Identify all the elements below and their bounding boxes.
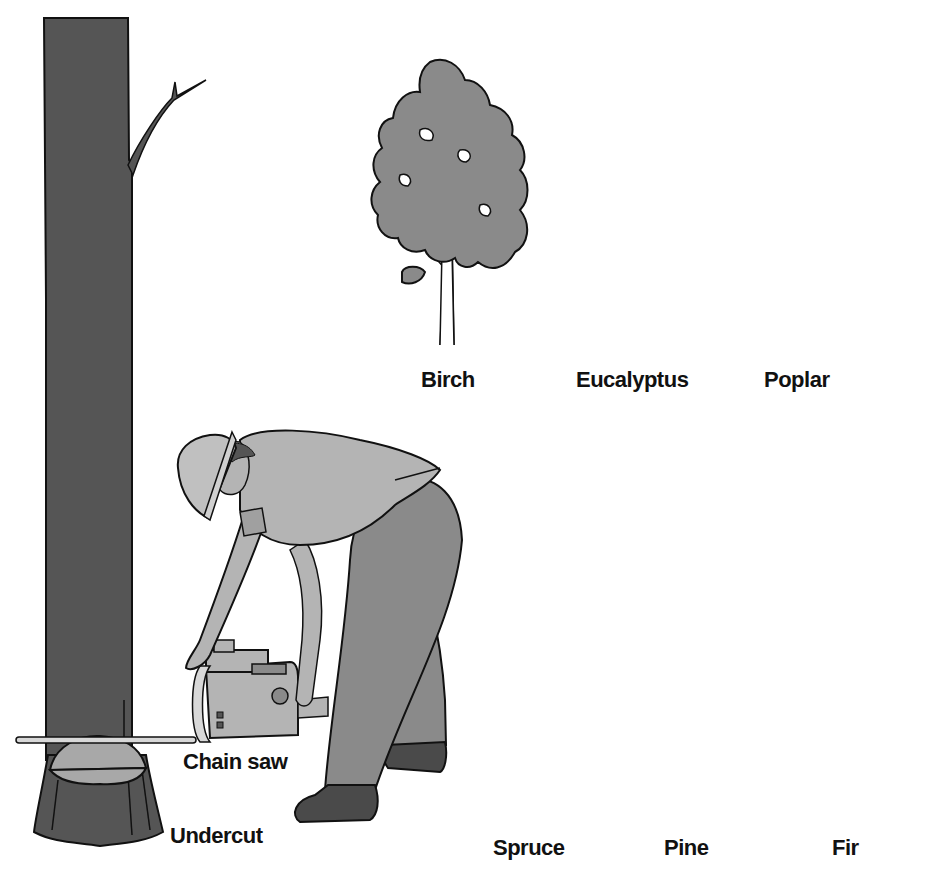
label-poplar: Poplar [764, 367, 829, 393]
birch-tree [371, 60, 527, 345]
label-chain-saw: Chain saw [183, 749, 287, 775]
tree-trunk [44, 18, 206, 760]
label-pine: Pine [664, 835, 708, 861]
label-spruce: Spruce [493, 835, 565, 861]
illustration [0, 0, 926, 882]
label-undercut: Undercut [170, 823, 263, 849]
label-birch: Birch [421, 367, 475, 393]
label-eucalyptus: Eucalyptus [576, 367, 688, 393]
label-fir: Fir [832, 835, 859, 861]
